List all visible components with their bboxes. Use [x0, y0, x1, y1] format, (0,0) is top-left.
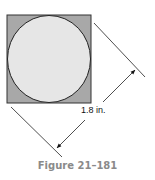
figure-caption: Figure 21–181	[0, 160, 155, 171]
figure-diagram	[0, 0, 155, 180]
extension-line-bottom-left	[11, 107, 62, 157]
dimension-line-lower	[57, 120, 85, 148]
extension-line-top-right	[94, 23, 145, 77]
inscribed-circle	[8, 16, 91, 103]
dimension-line-upper	[103, 70, 135, 102]
dimension-label: 1.8 in.	[80, 105, 107, 116]
